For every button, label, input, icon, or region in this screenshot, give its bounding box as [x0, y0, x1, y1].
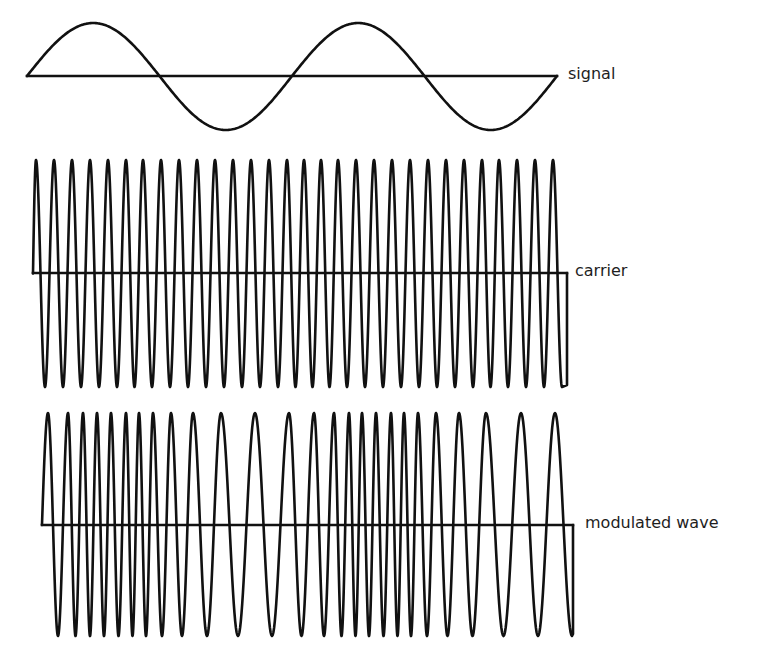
carrier-label: carrier — [575, 263, 627, 279]
modulated-panel — [42, 413, 573, 636]
signal-panel — [27, 23, 557, 130]
signal-label: signal — [568, 66, 615, 82]
carrier-panel — [33, 160, 567, 387]
carrier-wave — [33, 160, 567, 387]
fm-diagram — [0, 0, 763, 662]
modulated-wave-label: modulated wave — [585, 515, 718, 531]
